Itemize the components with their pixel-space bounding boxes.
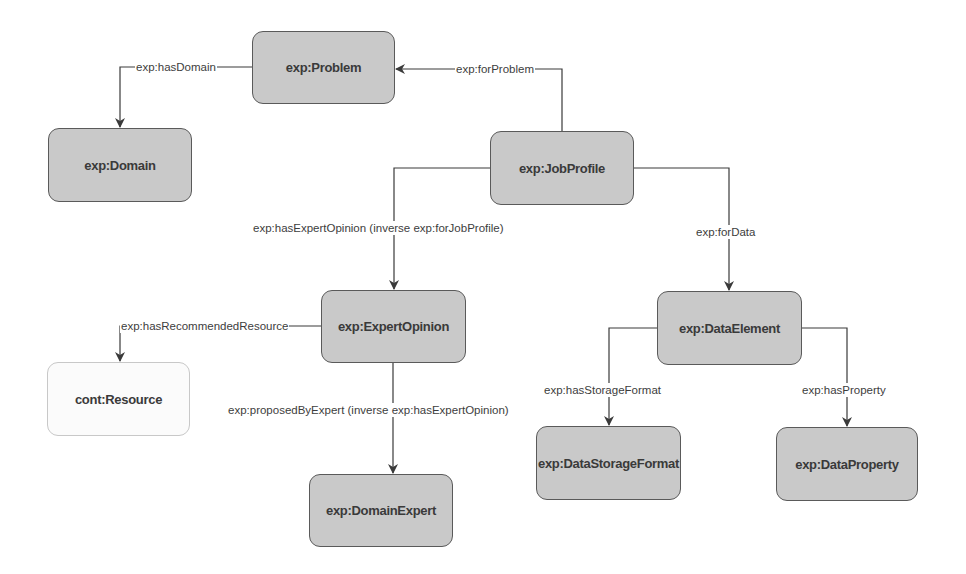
label-has-recommended-resource: exp:hasRecommendedResource [120,319,289,333]
node-data-element: exp:DataElement [657,291,802,365]
edge-has-storage-format [609,328,657,425]
label-for-problem: exp:forProblem [455,62,535,76]
edge-has-property [802,328,847,426]
label-has-expert-opinion: exp:hasExpertOpinion (inverse exp:forJob… [252,221,505,235]
label-has-storage-format: exp:hasStorageFormat [543,383,662,397]
label-proposed-by-expert: exp:proposedByExpert (inverse exp:hasExp… [227,403,510,417]
node-resource: cont:Resource [47,362,190,436]
node-data-storage-format: exp:DataStorageFormat [536,426,681,500]
node-data-property: exp:DataProperty [776,427,918,501]
node-job-profile: exp:JobProfile [490,131,634,205]
label-has-property: exp:hasProperty [801,383,887,397]
ontology-diagram: exp:hasDomain exp:forProblem exp:hasExpe… [0,0,966,574]
node-expert-opinion: exp:ExpertOpinion [321,290,466,363]
label-has-domain: exp:hasDomain [135,60,217,74]
node-domain-expert: exp:DomainExpert [309,474,453,547]
node-domain: exp:Domain [48,128,192,202]
edge-has-domain [120,67,252,127]
node-problem: exp:Problem [252,31,395,104]
label-for-data: exp:forData [695,225,756,239]
edge-for-problem [396,69,562,131]
